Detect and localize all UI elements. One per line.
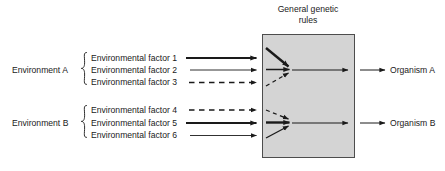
factor-label-1: Environmental factor 1 (91, 53, 177, 63)
diagram-canvas: General genetic rules Environment A Envi… (0, 0, 445, 171)
factor-label-4: Environmental factor 4 (91, 105, 177, 115)
rules-box-title-line1: General genetic (278, 4, 339, 14)
rules-box-title-line2: rules (299, 15, 318, 25)
factor-label-3: Environmental factor 3 (91, 77, 177, 87)
factor-label-6: Environmental factor 6 (91, 130, 177, 140)
environment-a-label: Environment A (12, 65, 68, 75)
organism-a-label: Organism A (390, 65, 435, 75)
factor-label-5: Environmental factor 5 (91, 118, 177, 128)
general-genetic-rules-box: General genetic rules (263, 4, 355, 158)
rules-box-rect (263, 35, 355, 158)
group-a: Environment A Environmental factor 1 Env… (12, 48, 435, 87)
brace-environment-b (81, 106, 86, 138)
brace-environment-a (81, 53, 86, 85)
environment-genetics-diagram: General genetic rules Environment A Envi… (0, 0, 445, 171)
factor-label-2: Environmental factor 2 (91, 65, 177, 75)
organism-b-label: Organism B (390, 118, 436, 128)
group-b: Environment B Environmental factor 4 Env… (12, 105, 436, 140)
environment-b-label: Environment B (12, 118, 69, 128)
